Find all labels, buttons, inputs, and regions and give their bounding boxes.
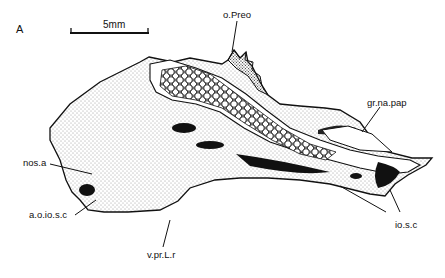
scale-bar-label: 5mm — [103, 19, 125, 30]
bone-illustration — [0, 0, 445, 278]
label-nos-a: nos.a — [23, 158, 46, 168]
label-v-pr-l-r: v.pr.L.r — [147, 250, 175, 260]
figure-panel-a: A 5mm o.Preo gr.na.pap nos.a a.o.io.s.c … — [0, 0, 445, 278]
label-o-preo: o.Preo — [223, 10, 251, 20]
label-gr-na-pap: gr.na.pap — [367, 98, 407, 108]
label-a-o-io-s-c: a.o.io.s.c — [29, 210, 67, 220]
panel-label: A — [16, 23, 23, 35]
bone-body — [50, 50, 432, 212]
label-io-s-c: io.s.c — [395, 220, 417, 230]
